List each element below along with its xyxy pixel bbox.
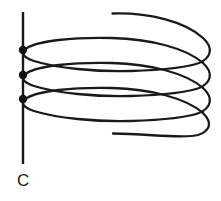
coil-group: [23, 13, 210, 136]
node-top-dot: [19, 46, 27, 54]
axis-label-c: C: [17, 171, 29, 190]
helix-figure: C: [0, 0, 221, 201]
node-middle-dot: [19, 71, 27, 79]
node-bottom-dot: [19, 95, 27, 103]
coil-tail-path: [113, 113, 209, 137]
helix-diagram-canvas: C: [0, 0, 221, 201]
